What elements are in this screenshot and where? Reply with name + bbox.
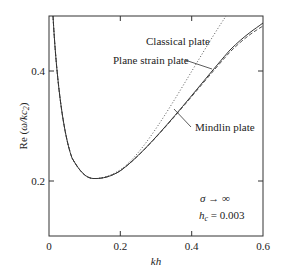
- plane-strain-pointer: [185, 60, 212, 69]
- mindlin-plate-label: Mindlin plate: [195, 121, 255, 133]
- x-ticks: [120, 16, 191, 236]
- y-tick-label: 0.4: [31, 65, 45, 77]
- sigma-annotation: σ → ∞: [200, 192, 230, 204]
- hc-annotation: hc = 0.003: [199, 209, 245, 223]
- y-axis-label: Re (ω/kc2): [17, 102, 31, 149]
- y-tick-label: 0.2: [31, 175, 45, 187]
- x-tick-label: 0.6: [256, 240, 270, 252]
- x-axis-label: kh: [151, 255, 162, 267]
- x-tick-label: 0.2: [113, 240, 127, 252]
- plane-strain-plate-label: Plane strain plate: [113, 54, 189, 66]
- x-tick-label: 0.4: [185, 240, 199, 252]
- chart: 0 0.2 0.4 0.6 0.2 0.4 kh Re (ω/kc2) Clas…: [0, 0, 284, 278]
- x-tick-label: 0: [46, 240, 52, 252]
- classical-plate-label: Classical plate: [146, 35, 210, 47]
- mindlin-pointer: [174, 109, 191, 127]
